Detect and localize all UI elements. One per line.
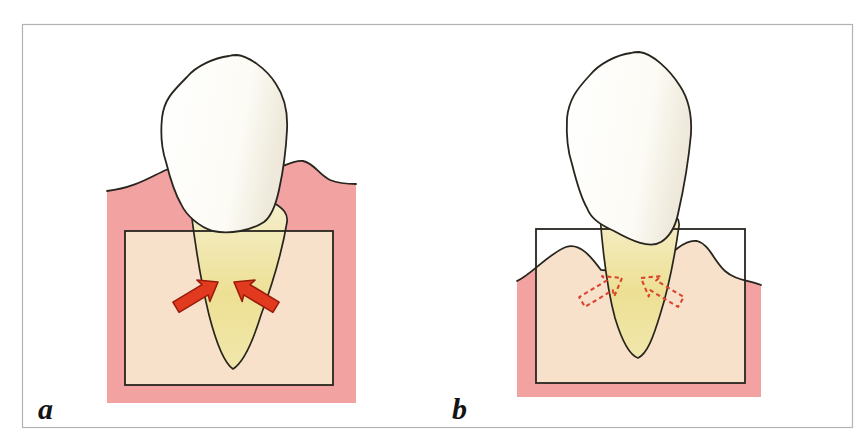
illustration-canvas: a b [0,0,867,448]
panel-label-b: b [452,392,467,425]
panel-label-a: a [38,392,53,425]
figure: a b [0,0,867,448]
